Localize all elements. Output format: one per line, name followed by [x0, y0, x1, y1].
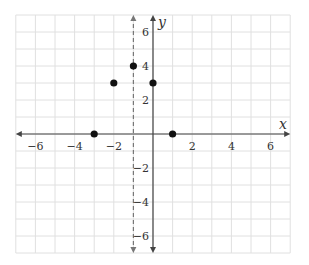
arrow-left-icon	[16, 131, 22, 137]
x-tick-label: 2	[189, 140, 196, 153]
data-point	[149, 79, 156, 86]
data-point	[130, 62, 137, 69]
y-axis-label: y	[157, 14, 167, 30]
axes	[16, 15, 290, 253]
x-tick-label: −2	[106, 140, 122, 153]
arrow-down-icon	[150, 247, 156, 253]
y-tick-label: 6	[142, 26, 149, 39]
x-tick-label: −4	[66, 140, 82, 153]
y-tick-label: 4	[142, 60, 149, 73]
data-point	[169, 130, 176, 137]
arrow-down-icon	[130, 247, 136, 253]
y-tick-label: 2	[142, 94, 149, 107]
data-point	[91, 130, 98, 137]
arrow-up-icon	[130, 15, 136, 21]
coordinate-plane: −6−4−2246−6−4−2246 x y	[0, 0, 309, 265]
x-tick-label: −6	[27, 140, 43, 153]
y-tick-label: −6	[133, 230, 149, 243]
x-axis-label: x	[279, 116, 287, 132]
y-tick-label: −4	[133, 196, 149, 209]
arrow-up-icon	[150, 15, 156, 21]
y-tick-label: −2	[133, 162, 149, 175]
x-tick-label: 6	[267, 140, 274, 153]
x-tick-label: 4	[228, 140, 235, 153]
data-point	[110, 79, 117, 86]
